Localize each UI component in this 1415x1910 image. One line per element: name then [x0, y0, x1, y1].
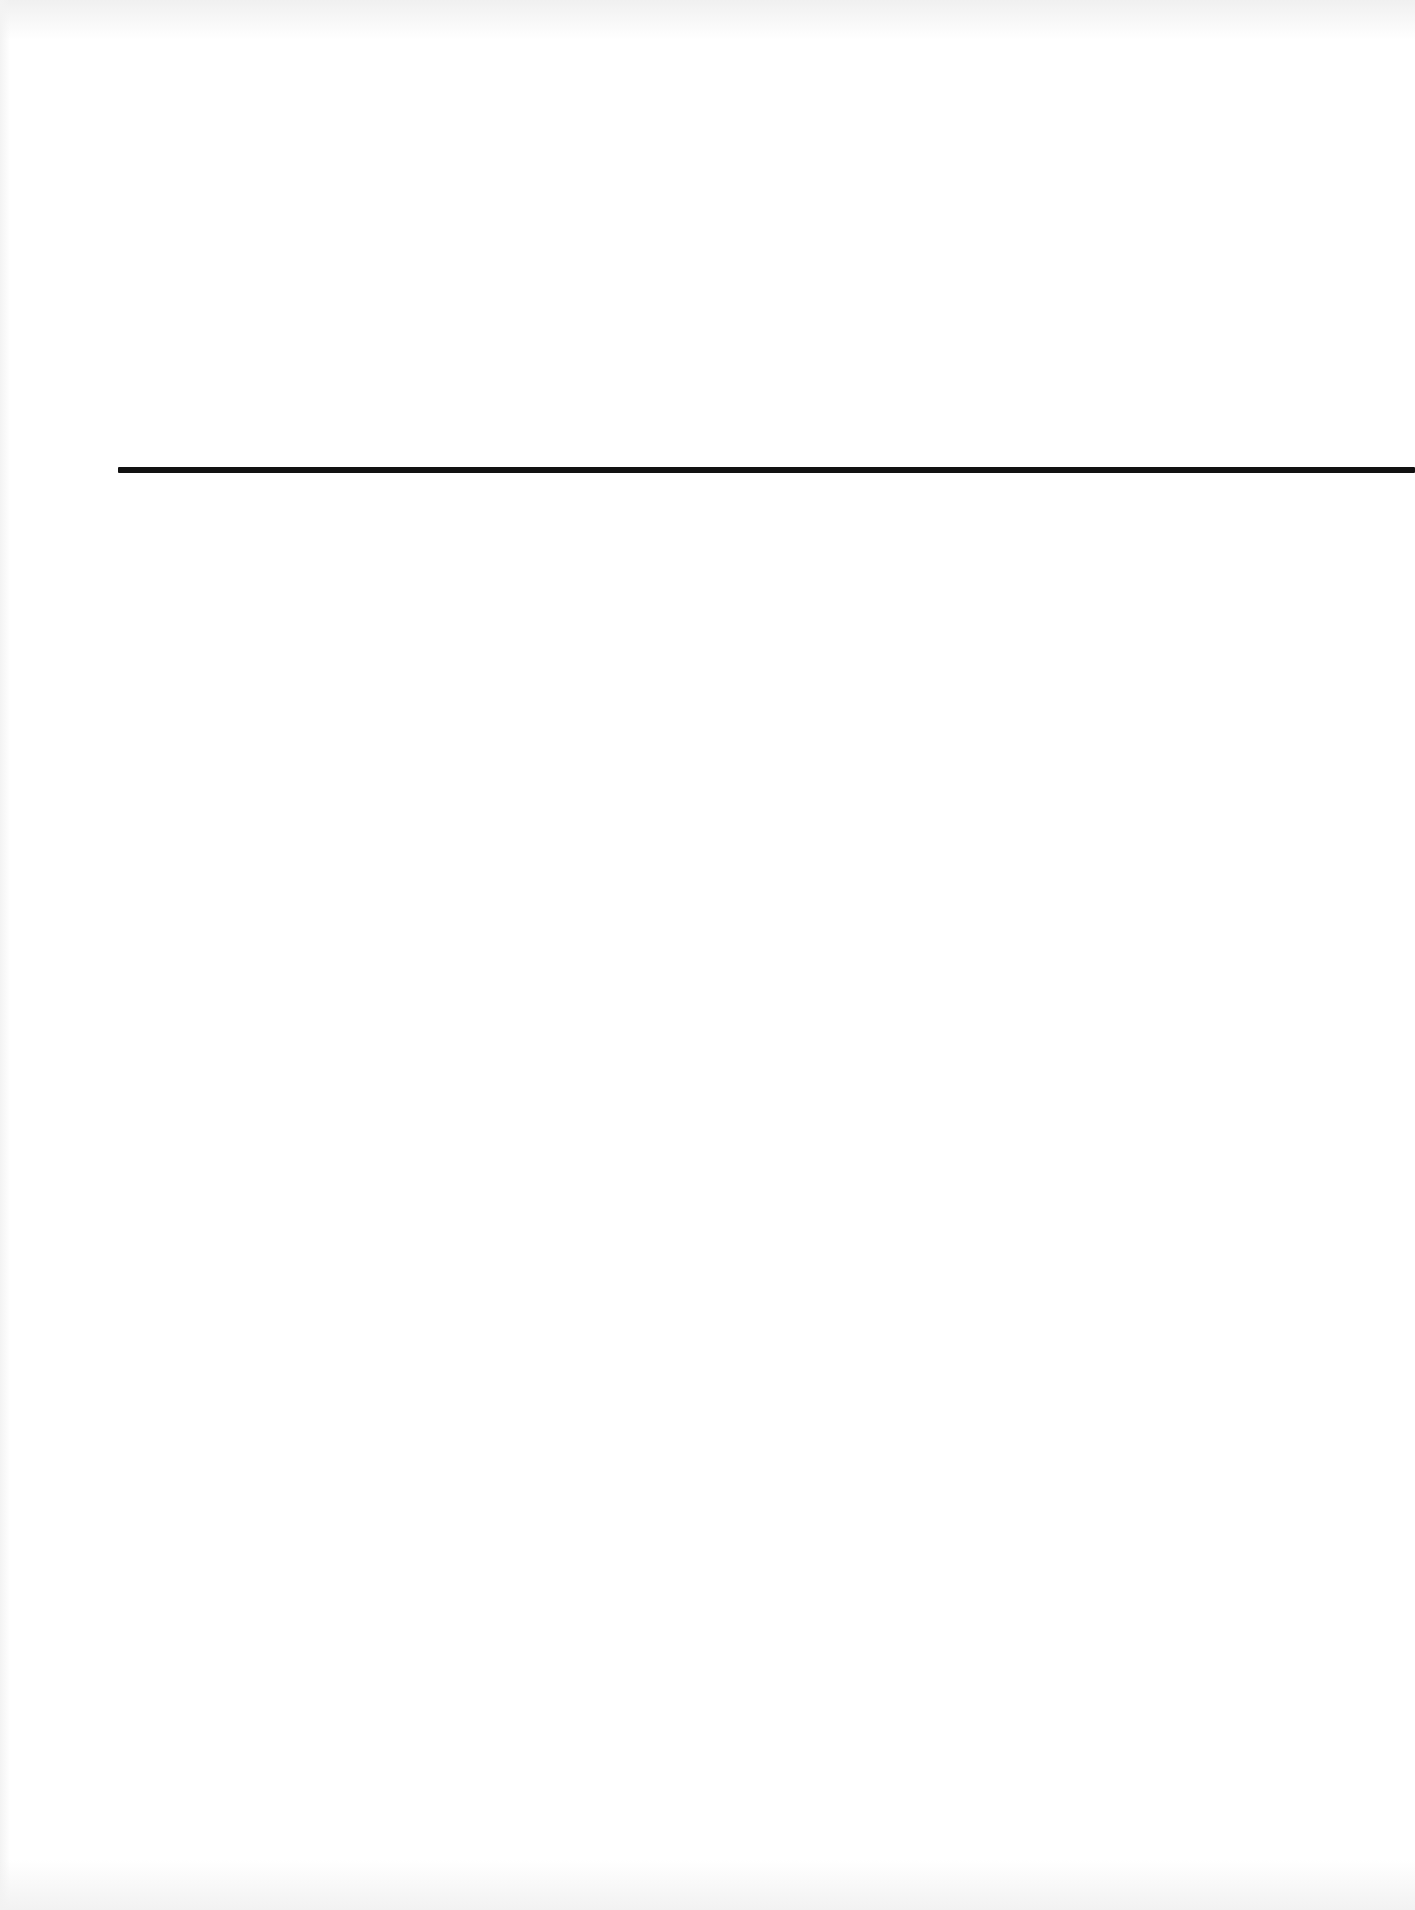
scan-edge-shading-bottom — [0, 1860, 1415, 1910]
scan-edge-shading-top — [0, 0, 1415, 40]
horizontal-rule — [118, 467, 1415, 473]
scan-edge-shading-left — [0, 0, 10, 1910]
blank-page — [0, 0, 1415, 1910]
